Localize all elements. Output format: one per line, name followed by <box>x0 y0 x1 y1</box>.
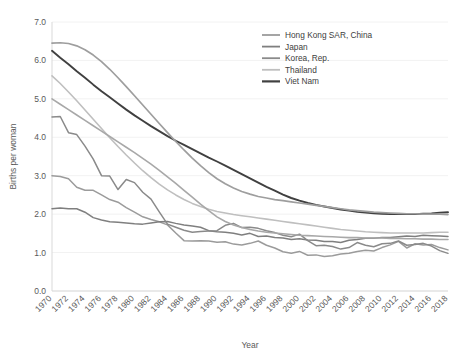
x-tick-label: 1974 <box>66 293 87 314</box>
legend-label-4: Thailand <box>285 65 317 75</box>
x-tick-label: 2008 <box>346 293 367 314</box>
x-tick-label: 1978 <box>99 293 120 314</box>
y-tick-label: 3.0 <box>34 171 46 181</box>
y-tick-label: 4.0 <box>34 132 46 142</box>
x-tick-label: 2016 <box>412 293 433 314</box>
x-tick-label: 1986 <box>165 293 186 314</box>
y-tick-label: 5.0 <box>34 94 46 104</box>
x-tick-label: 2018 <box>429 293 450 314</box>
y-tick-label: 6.0 <box>34 55 46 65</box>
x-tick-label: 2014 <box>396 293 417 314</box>
series-line-5 <box>52 51 448 214</box>
legend-label-1: Hong Kong SAR, China <box>285 30 373 40</box>
x-tick-label: 2010 <box>363 293 384 314</box>
chart-canvas: 0.01.02.03.04.05.06.07.01970197219741976… <box>0 0 460 360</box>
x-tick-label: 2002 <box>297 293 318 314</box>
y-axis-title: Births per woman <box>8 123 18 189</box>
x-tick-label: 1980 <box>115 293 136 314</box>
x-tick-label: 1972 <box>49 293 70 314</box>
series-line-7 <box>52 99 448 240</box>
x-tick-label: 1998 <box>264 293 285 314</box>
x-tick-label: 1982 <box>132 293 153 314</box>
series-line-6 <box>52 43 448 215</box>
x-tick-label: 1992 <box>214 293 235 314</box>
legend-label-5: Viet Nam <box>285 76 319 86</box>
x-tick-label: 1994 <box>231 293 252 314</box>
fertility-line-chart: 0.01.02.03.04.05.06.07.01970197219741976… <box>0 0 460 360</box>
x-tick-label: 1988 <box>181 293 202 314</box>
x-tick-label: 2012 <box>379 293 400 314</box>
x-tick-label: 1976 <box>82 293 103 314</box>
x-tick-label: 2004 <box>313 293 334 314</box>
x-tick-label: 2000 <box>280 293 301 314</box>
legend-label-3: Korea, Rep. <box>285 53 329 63</box>
x-tick-label: 1990 <box>198 293 219 314</box>
x-tick-label: 1984 <box>148 293 169 314</box>
x-tick-label: 1996 <box>247 293 268 314</box>
y-tick-label: 7.0 <box>34 17 46 27</box>
x-tick-label: 2006 <box>330 293 351 314</box>
y-tick-label: 1.0 <box>34 248 46 258</box>
legend-label-2: Japan <box>285 42 308 52</box>
x-tick-label: 1970 <box>33 293 54 314</box>
x-axis-title: Year <box>241 340 258 350</box>
y-tick-label: 2.0 <box>34 209 46 219</box>
